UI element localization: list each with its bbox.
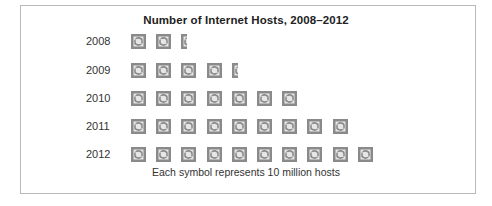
globe-icon bbox=[131, 147, 146, 162]
year-label: 2012 bbox=[86, 148, 110, 160]
globe-icon bbox=[257, 147, 272, 162]
globe-icon bbox=[333, 119, 348, 134]
globe-icon bbox=[257, 91, 272, 106]
partial-globe-icon bbox=[232, 63, 238, 78]
globe-icon bbox=[282, 147, 297, 162]
partial-globe-icon bbox=[181, 34, 187, 49]
globe-icon bbox=[232, 91, 247, 106]
globe-icon bbox=[131, 119, 146, 134]
globe-icon bbox=[131, 34, 146, 49]
globe-icon bbox=[181, 119, 196, 134]
globe-icon bbox=[156, 63, 171, 78]
globe-icon bbox=[282, 119, 297, 134]
pictograph-row: 2008 bbox=[0, 34, 492, 50]
globe-icon bbox=[232, 119, 247, 134]
globe-icon bbox=[257, 119, 272, 134]
pictograph-row: 2009 bbox=[0, 63, 492, 79]
globe-icon bbox=[181, 63, 196, 78]
globe-icon bbox=[156, 119, 171, 134]
globe-icon bbox=[282, 91, 297, 106]
globe-icon bbox=[207, 63, 222, 78]
symbol-legend: Each symbol represents 10 million hosts bbox=[0, 166, 492, 178]
globe-icon bbox=[181, 91, 196, 106]
pictograph-row: 2011 bbox=[0, 119, 492, 135]
globe-icon bbox=[131, 91, 146, 106]
year-label: 2011 bbox=[86, 120, 110, 132]
chart-title: Number of Internet Hosts, 2008–2012 bbox=[0, 14, 492, 26]
globe-icon bbox=[207, 119, 222, 134]
year-label: 2010 bbox=[86, 92, 110, 104]
globe-icon bbox=[131, 63, 146, 78]
globe-icon bbox=[307, 147, 322, 162]
globe-icon bbox=[156, 147, 171, 162]
globe-icon bbox=[207, 91, 222, 106]
globe-icon bbox=[358, 147, 373, 162]
pictograph-row: 2010 bbox=[0, 91, 492, 107]
globe-icon bbox=[307, 119, 322, 134]
globe-icon bbox=[207, 147, 222, 162]
globe-icon bbox=[333, 147, 348, 162]
globe-icon bbox=[181, 147, 196, 162]
globe-icon bbox=[232, 147, 247, 162]
globe-icon bbox=[156, 34, 171, 49]
globe-icon bbox=[156, 91, 171, 106]
year-label: 2009 bbox=[86, 64, 110, 76]
pictograph-row: 2012 bbox=[0, 147, 492, 163]
year-label: 2008 bbox=[86, 35, 110, 47]
